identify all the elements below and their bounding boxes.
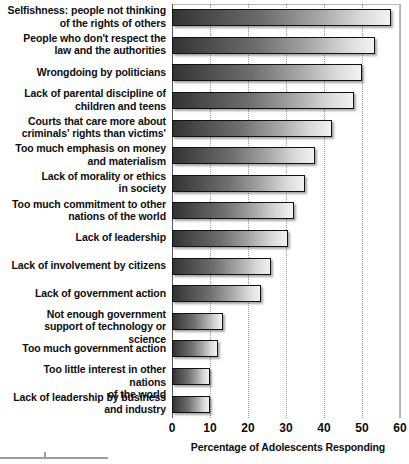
bar-rows-group: Selfishness: people not thinkingof the r… [0,4,409,418]
bar-row: Selfishness: people not thinkingof the r… [0,4,409,32]
x-tick-label-20: 20 [228,421,268,435]
bar-row: People who don't respect thelaw and the … [0,32,409,60]
page-edge-artifact-tick [44,452,46,458]
bar-category-label: Lack of parental discipline ofchildren a… [6,87,166,112]
bar-track [172,64,362,81]
bar [172,285,261,302]
bar-row: Lack of parental discipline ofchildren a… [0,87,409,115]
bar-track [172,202,294,219]
bar [172,120,332,137]
bar [172,175,305,192]
bar-track [172,120,332,137]
bar [172,147,315,164]
bar-category-label: Lack of leadership [6,231,166,243]
bar [172,368,210,385]
x-tick-label-60: 60 [380,421,409,435]
bar [172,396,210,413]
bar-row: Too little interest in other nationsof t… [0,363,409,391]
bar-category-label: Wrongdoing by politicians [6,66,166,78]
bar-row: Lack of leadership [0,225,409,253]
bar-row: Lack of leadership by businessand indust… [0,390,409,418]
bar [172,202,294,219]
bar [172,64,362,81]
bar-category-label: Lack of morality or ethicsin society [6,170,166,195]
bar-row: Too much commitment to othernations of t… [0,197,409,225]
bar [172,92,354,109]
bar-category-label: People who don't respect thelaw and the … [6,32,166,57]
x-tick-label-10: 10 [190,421,230,435]
bar-row: Lack of involvement by citizens [0,252,409,280]
bar-track [172,9,391,26]
bar-row: Too much emphasis on moneyand materialis… [0,142,409,170]
x-tick-label-0: 0 [152,421,192,435]
x-tick-label-40: 40 [304,421,344,435]
bar-track [172,313,223,330]
bar-track [172,37,375,54]
bar [172,37,375,54]
bar-category-label: Lack of involvement by citizens [6,259,166,271]
bar-chart: Selfishness: people not thinkingof the r… [0,0,409,464]
x-tick-label-50: 50 [342,421,382,435]
bar-track [172,175,305,192]
bar-track [172,92,354,109]
bar-row: Wrongdoing by politicians [0,59,409,87]
x-tick-label-30: 30 [266,421,306,435]
bar [172,230,288,247]
bar-track [172,396,210,413]
bar-category-label: Too much government action [6,342,166,354]
bar-category-label: Selfishness: people not thinkingof the r… [6,4,166,29]
page-edge-artifact [0,457,108,459]
bar-row: Not enough governmentsupport of technolo… [0,308,409,336]
bar-track [172,340,218,357]
bar [172,313,223,330]
bar-category-label: Too much commitment to othernations of t… [6,198,166,223]
bar [172,340,218,357]
bar-track [172,285,261,302]
bar-row: Lack of government action [0,280,409,308]
bar [172,9,391,26]
bar [172,258,271,275]
bar-category-label: Too much emphasis on moneyand materialis… [6,142,166,167]
x-axis-tick-labels: 0102030405060 [0,421,409,439]
bar-row: Too much government action [0,335,409,363]
x-axis-title: Percentage of Adolescents Responding [172,441,404,453]
bar-track [172,258,271,275]
bar-category-label: Lack of government action [6,287,166,299]
bar-track [172,147,315,164]
bar-category-label: Courts that care more aboutcriminals' ri… [6,115,166,140]
bar-row: Lack of morality or ethicsin society [0,170,409,198]
bar-track [172,368,210,385]
bar-row: Courts that care more aboutcriminals' ri… [0,114,409,142]
bar-category-label: Lack of leadership by businessand indust… [6,391,166,416]
bar-track [172,230,288,247]
